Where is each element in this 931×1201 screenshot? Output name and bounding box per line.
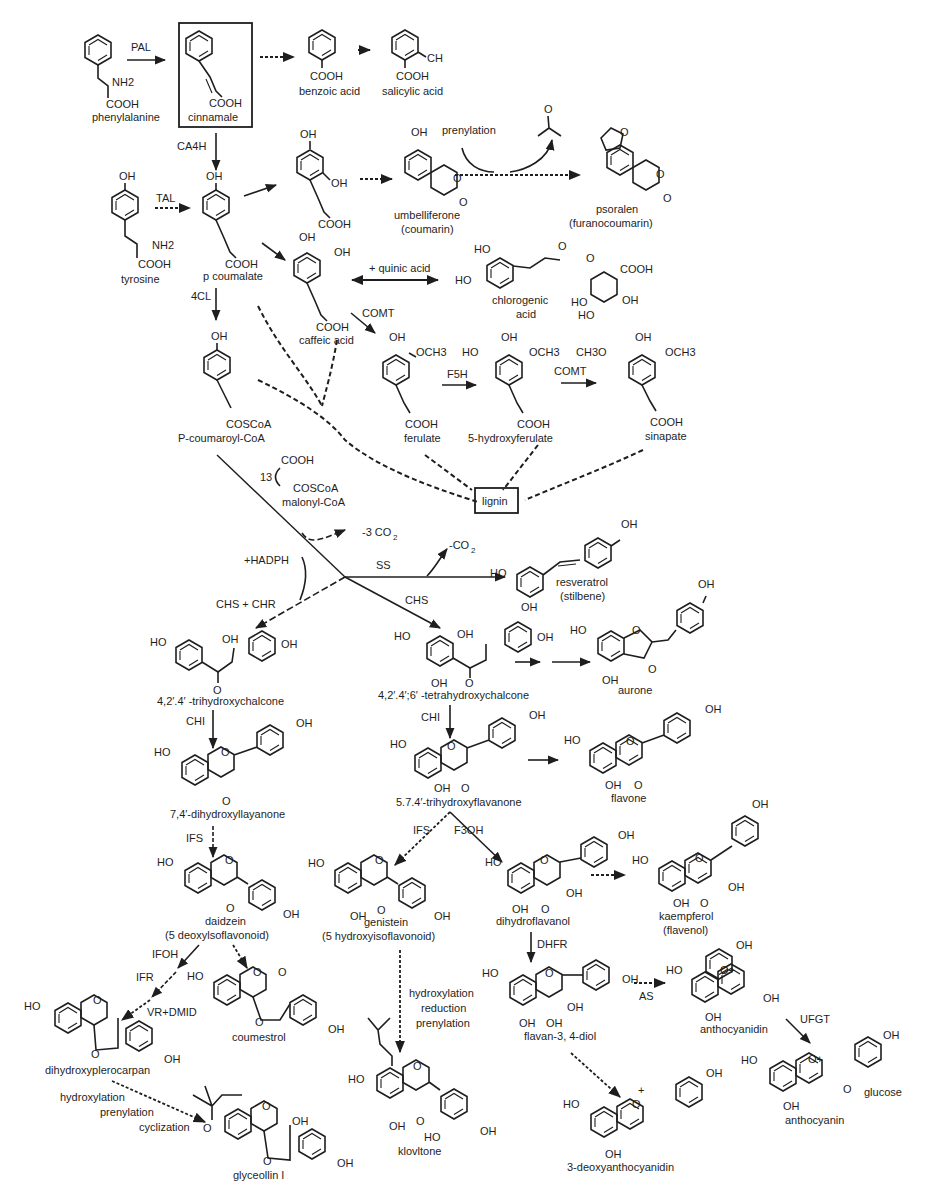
hydroxyl-group-label: HO <box>666 964 683 976</box>
hydroxyl-group-label: OH <box>389 1120 406 1132</box>
hydroxyl-group-label: OH <box>605 1148 622 1160</box>
5-hydroxyferulate-label: 5-hydroxyferulate <box>468 432 553 444</box>
lignin-path-coumaroyl <box>258 380 478 502</box>
compound-acetone: O <box>538 103 561 136</box>
furan-oxygen-label: O <box>620 126 629 138</box>
enzyme-ifoh-label: IFOH <box>152 948 178 960</box>
hydroxyl-group-label: HO <box>24 1000 41 1012</box>
hydroxyl-group-label: OH <box>222 633 239 645</box>
hydroxyl-group-label: HO <box>570 624 587 636</box>
ferulate-label: ferulate <box>404 432 441 444</box>
enzyme-ifs-1-label: IFS <box>186 832 203 844</box>
carbonyl-oxygen-label: O <box>377 904 386 916</box>
hydroxyl-group-label: HO <box>150 636 167 648</box>
deoxyanthocyanidin-label: 3-deoxyanthocyanidin <box>567 1161 674 1173</box>
hydroxyl-group-label: OH <box>673 897 690 909</box>
hydroxyl-group-label: HO <box>632 854 649 866</box>
pathway-diagram: NH2 COOH phenylalanine PAL COOH cinnamal… <box>0 0 931 1201</box>
enzyme-ifs-2-label: IFS <box>413 824 430 836</box>
glyceollin-step-prenylation: prenylation <box>100 1106 154 1118</box>
ring-oxygen-label: O <box>540 854 549 866</box>
prenylation-label: prenylation <box>442 124 496 136</box>
chlorogenic-acid-label: chlorogenic <box>492 294 549 306</box>
carbonyl-oxygen-label: O <box>541 903 550 915</box>
tyrosine-label: tyrosine <box>121 273 160 285</box>
enzyme-as-label: AS <box>639 990 654 1002</box>
kaempferol-class-label: (flavenol) <box>663 924 708 936</box>
oxonium-label: O <box>632 1098 641 1110</box>
flavan-diol-label: flavan-3, 4-diol <box>524 1030 596 1042</box>
ring-oxygen-label: O <box>626 735 635 747</box>
hydroxyl-group-label: OH <box>622 294 639 306</box>
hydroxyl-group-label: OH <box>705 703 722 715</box>
aurone-para-oh-label: OH <box>698 578 715 590</box>
tetrahydroxychalcone-label: 4,2′.4′;6′ -tetrahydroxychalcone <box>378 689 529 701</box>
compound-5-hydroxyferulate: HO OH OCH3 COOH 5-hydroxyferulate <box>462 331 560 444</box>
ring-oxygen-label: O <box>656 168 665 180</box>
compound-aurone: HO O OH O aurone <box>570 596 706 696</box>
compound-anthocyanin: OH HO O+ O glucose OH anthocyanin <box>741 1029 902 1126</box>
ring-oxygen-label: O <box>93 994 102 1006</box>
hydroxyl-group-label: OH <box>281 638 298 650</box>
hydroxyl-group-label: HO <box>462 346 479 358</box>
enzyme-chi-2-label: CHI <box>421 711 440 723</box>
carbonyl-oxygen-label: O <box>222 795 231 807</box>
hydroxyl-group-label: HO <box>490 567 507 579</box>
compound-malonyl-coa: COOH 13 COSCoA malonyl-CoA <box>260 454 346 508</box>
coumestrol-label: coumestrol <box>232 1031 286 1043</box>
hydroxyl-group-label: OH <box>328 1023 345 1035</box>
ester-oxygen-label: O <box>586 252 595 264</box>
compound-genistein: HO O OH O OH genistein (5 hydroxyisoflav… <box>308 854 451 942</box>
enzyme-comt-2-label: COMT <box>554 365 587 377</box>
charge-plus-label: + <box>638 1084 644 1096</box>
hydroxyl-group-label: OH <box>434 782 451 794</box>
hydroxyl-group-label: OH <box>334 246 351 258</box>
minus-co2-label: -CO <box>449 539 470 551</box>
hydroxyl-group-label: HO <box>187 970 204 982</box>
compound-p-coumarate: OH COOH p coumalate <box>203 170 263 282</box>
furan-oxygen-label: O <box>91 1048 100 1060</box>
carboxyl-group-label: COOH <box>106 98 139 110</box>
hydroxyl-group-label: HO <box>394 630 411 642</box>
hadph-label: +HADPH <box>244 554 289 566</box>
benzoic-acid-label: benzoic acid <box>299 85 360 97</box>
enzyme-4cl-label: 4CL <box>191 290 211 302</box>
carboxyl-group-label: COOH <box>138 258 171 270</box>
kievitone-step-prenylation: prenylation <box>416 1017 470 1029</box>
carboxyl-group-label: COOH <box>650 416 683 428</box>
minus-3co2-label: -3 CO <box>362 526 392 538</box>
compound-resveratrol: HO OH OH resveratrol (stilbene) <box>490 518 638 613</box>
ring-oxygen-label: O <box>632 624 641 636</box>
enzyme-ca4h-label: CA4H <box>177 140 206 152</box>
enzyme-comt-1-label: COMT <box>362 307 395 319</box>
enzyme-chs-chr-label: CHS + CHR <box>216 598 276 610</box>
hydroxyl-group-label: OH <box>431 677 448 689</box>
lignin-label: lignin <box>482 495 508 507</box>
carboxyl-group-label: COOH <box>316 321 349 333</box>
compound-caffeic-acid: OH OH COOH caffeic acid <box>294 231 354 346</box>
sinapate-label: sinapate <box>645 430 687 442</box>
oxonium-label: O+ <box>720 964 735 976</box>
f3oh-arrow <box>450 812 502 862</box>
flavone-label: flavone <box>611 792 646 804</box>
enzyme-pal-label: PAL <box>131 41 151 53</box>
carboxyl-group-label: COOH <box>318 218 351 230</box>
hydroxyl-group-label: HO <box>482 967 499 979</box>
carbonyl-oxygen-label: O <box>648 663 657 675</box>
co2-subscript: 2 <box>471 546 476 555</box>
minus-co2-arrow <box>427 549 447 576</box>
dihydroxyflavanone-label: 7,4′-dihydroxyllayanone <box>170 808 285 820</box>
hydroxyl-group-label: OH <box>164 1053 181 1065</box>
furan-oxygen-label: O <box>255 1016 264 1028</box>
daidzein-label: daidzein <box>205 915 246 927</box>
hydroxyl-group-label: OH <box>566 887 583 899</box>
carbonyl-oxygen-label: O <box>558 240 567 252</box>
hydroxyl-group-label: OH <box>728 881 745 893</box>
compound-tyrosine: OH NH2 COOH tyrosine <box>112 170 174 285</box>
dihydroxypterocarpan-label: dihydroxyplerocarpan <box>45 1064 150 1076</box>
hydroxyl-group-label: OH <box>605 779 622 791</box>
hydroxyl-group-label: HO <box>578 309 595 321</box>
compound-cinnamate: COOH cinnamale <box>179 23 252 127</box>
methoxy-group-label: OCH3 <box>416 346 447 358</box>
ifr-arrow <box>152 972 176 997</box>
